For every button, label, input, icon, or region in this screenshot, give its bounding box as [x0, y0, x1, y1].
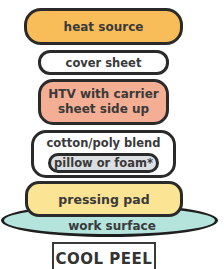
htv-label-line1: HTV with carrier	[48, 87, 159, 101]
htv-label-line2: sheet side up	[58, 102, 149, 116]
cover-sheet-layer: cover sheet	[38, 50, 169, 75]
pillow-label: pillow or foam*	[54, 156, 153, 170]
pillow-layer: pillow or foam*	[48, 153, 159, 173]
peel-type-box: COOL PEEL	[52, 242, 156, 269]
work-surface-label: work surface	[0, 219, 224, 233]
htv-layer: HTV with carrier sheet side up	[38, 79, 169, 125]
heat-source-label: heat source	[64, 20, 144, 34]
garment-label: cotton/poly blend	[34, 136, 173, 150]
garment-layer: cotton/poly blend pillow or foam*	[31, 130, 176, 178]
pressing-pad-layer: pressing pad	[25, 181, 183, 217]
cover-sheet-label: cover sheet	[66, 56, 142, 70]
pressing-pad-label: pressing pad	[58, 192, 149, 207]
heat-source-layer: heat source	[24, 8, 183, 45]
peel-type-label: COOL PEEL	[56, 250, 153, 268]
